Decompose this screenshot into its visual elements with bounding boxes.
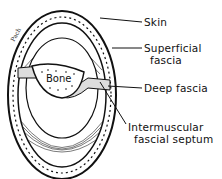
label-intermuscular-line2: fascial septum <box>134 134 213 145</box>
label-superficial-fascia-line2: fascia <box>150 55 182 66</box>
label-intermuscular-line1: Intermuscular <box>128 122 204 133</box>
label-skin: Skin <box>144 17 167 28</box>
leader-lines <box>100 18 142 124</box>
label-deep-fascia: Deep fascia <box>144 83 208 94</box>
label-superficial-fascia-line1: Superficial <box>144 43 202 54</box>
label-bone: Bone <box>46 73 71 84</box>
